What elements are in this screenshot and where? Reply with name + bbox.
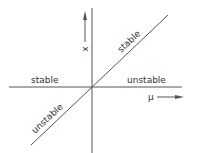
x-axis-arrow xyxy=(83,11,87,42)
bifurcation-diagram: x μ stable unstable stable unstable xyxy=(0,0,200,153)
label-horizontal-left: stable xyxy=(31,75,59,85)
label-diagonal-upper: stable xyxy=(116,28,143,54)
label-horizontal-right: unstable xyxy=(127,75,166,85)
x-axis-label: x xyxy=(80,46,90,52)
mu-axis-arrow xyxy=(157,95,184,99)
mu-axis-label: μ xyxy=(148,92,154,102)
label-diagonal-lower: unstable xyxy=(30,101,66,135)
